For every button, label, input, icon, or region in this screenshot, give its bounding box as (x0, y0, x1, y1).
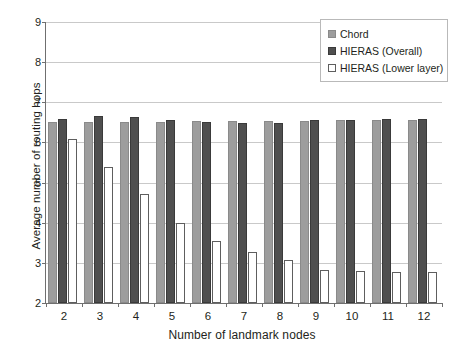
legend-item-chord[interactable]: Chord (328, 25, 441, 42)
y-axis-title: Average number of routing hops (30, 46, 42, 286)
bar[interactable] (336, 120, 345, 303)
bar[interactable] (228, 121, 237, 303)
bar[interactable] (68, 139, 77, 303)
bar[interactable] (130, 117, 139, 303)
x-tick-mark (298, 303, 299, 307)
bar[interactable] (166, 120, 175, 303)
x-tick-label: 9 (313, 310, 319, 322)
bar[interactable] (58, 119, 67, 303)
x-tick-label: 6 (205, 310, 211, 322)
bar[interactable] (84, 122, 93, 303)
bar-group (118, 22, 154, 303)
bar[interactable] (248, 252, 257, 303)
y-tick-label: 2 (35, 297, 41, 309)
legend-swatch-icon (328, 47, 336, 55)
y-tick-label: 4 (35, 217, 41, 229)
bar-group (82, 22, 118, 303)
x-axis-title: Number of landmark nodes (44, 328, 440, 342)
bar[interactable] (408, 120, 417, 303)
bar[interactable] (392, 272, 401, 303)
x-tick-mark (226, 303, 227, 307)
bar[interactable] (238, 123, 247, 303)
x-tick-mark (262, 303, 263, 307)
bar[interactable] (212, 241, 221, 303)
legend: Chord HIERAS (Overall) HIERAS (Lower lay… (320, 19, 448, 82)
x-tick-label: 7 (241, 310, 247, 322)
bar[interactable] (320, 270, 329, 303)
bar[interactable] (382, 119, 391, 303)
bar[interactable] (274, 123, 283, 303)
x-tick-mark (442, 303, 443, 307)
x-tick-mark (82, 303, 83, 307)
legend-label: HIERAS (Lower layer) (340, 62, 443, 74)
bar-group (262, 22, 298, 303)
bar[interactable] (264, 121, 273, 303)
y-tick-label: 8 (35, 56, 41, 68)
bar-group (154, 22, 190, 303)
x-tick-mark (370, 303, 371, 307)
bar[interactable] (428, 272, 437, 303)
x-tick-label: 12 (418, 310, 431, 322)
bar[interactable] (94, 116, 103, 303)
y-tick-label: 9 (35, 16, 41, 28)
legend-swatch-icon (328, 64, 336, 72)
bar[interactable] (310, 120, 319, 303)
bar-group (190, 22, 226, 303)
legend-label: HIERAS (Overall) (340, 45, 422, 57)
x-tick-label: 11 (382, 310, 394, 322)
x-tick-label: 5 (169, 310, 175, 322)
bar[interactable] (284, 260, 293, 303)
bar[interactable] (192, 121, 201, 303)
y-tick-label: 6 (35, 136, 41, 148)
bar[interactable] (300, 121, 309, 303)
chart-figure: Average number of routing hops 234567892… (0, 0, 456, 353)
bar-group (226, 22, 262, 303)
bar-group (46, 22, 82, 303)
y-tick-label: 5 (35, 177, 41, 189)
x-tick-mark (118, 303, 119, 307)
legend-label: Chord (340, 28, 369, 40)
bar[interactable] (202, 122, 211, 303)
x-tick-mark (406, 303, 407, 307)
bar[interactable] (140, 194, 149, 303)
x-tick-mark (154, 303, 155, 307)
bar[interactable] (372, 120, 381, 303)
bar[interactable] (418, 119, 427, 303)
legend-item-hieras-lower[interactable]: HIERAS (Lower layer) (328, 59, 441, 76)
bar[interactable] (156, 122, 165, 303)
legend-item-hieras-overall[interactable]: HIERAS (Overall) (328, 42, 441, 59)
bar[interactable] (346, 120, 355, 303)
y-tick-label: 3 (35, 257, 41, 269)
bar[interactable] (48, 122, 57, 303)
x-tick-label: 3 (97, 310, 103, 322)
x-tick-label: 10 (346, 310, 359, 322)
x-tick-label: 8 (277, 310, 283, 322)
bar[interactable] (356, 271, 365, 303)
bar[interactable] (120, 122, 129, 303)
x-tick-mark (46, 303, 47, 307)
x-tick-label: 2 (61, 310, 67, 322)
bar[interactable] (104, 167, 113, 303)
x-tick-mark (334, 303, 335, 307)
y-tick-label: 7 (35, 96, 41, 108)
x-tick-mark (190, 303, 191, 307)
x-tick-label: 4 (133, 310, 139, 322)
bar[interactable] (176, 223, 185, 303)
legend-swatch-icon (328, 30, 336, 38)
